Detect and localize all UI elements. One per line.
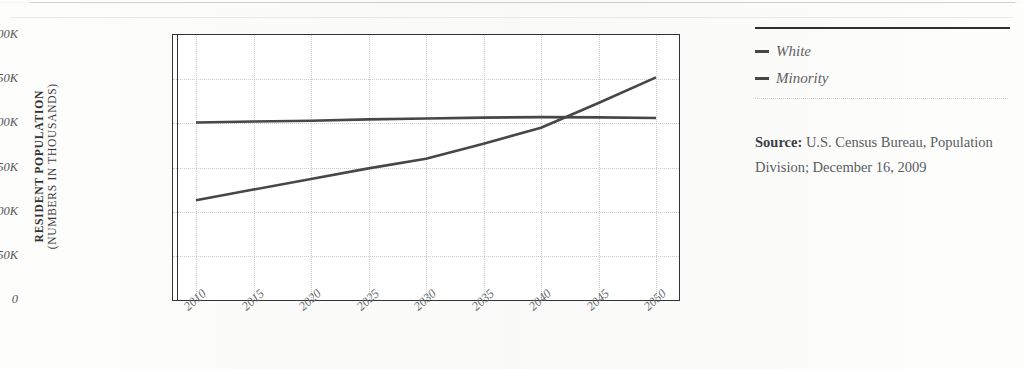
y-axis-title-sub: (NUMBERS IN THOUSANDS) xyxy=(46,83,59,249)
source-note: Source: U.S. Census Bureau, Population D… xyxy=(755,130,1017,180)
series-line-minority xyxy=(196,77,656,200)
y-axis-tick-label: 200K xyxy=(0,115,18,130)
y-axis-tick-label: 300K xyxy=(0,27,18,42)
legend-label: White xyxy=(776,43,811,60)
y-axis-tick-label: 0 xyxy=(12,292,18,307)
panel-dotted-rule xyxy=(755,98,1008,99)
legend-swatch-icon xyxy=(755,77,769,80)
y-axis-title: RESIDENT POPULATION (NUMBERS IN THOUSAND… xyxy=(24,28,68,304)
side-panel: WhiteMinority Source: U.S. Census Bureau… xyxy=(740,0,1023,369)
legend-label: Minority xyxy=(776,70,829,87)
source-label: Source: xyxy=(755,134,802,150)
chart-legend: WhiteMinority xyxy=(755,38,1010,92)
line-chart-figure: RESIDENT POPULATION (NUMBERS IN THOUSAND… xyxy=(0,0,700,369)
y-axis-tick-label: 150K xyxy=(0,159,18,174)
y-axis-tick-label: 250K xyxy=(0,71,18,86)
panel-top-rule xyxy=(755,27,1010,29)
y-axis-tick-label: 50K xyxy=(0,247,18,262)
series-lines xyxy=(173,35,679,300)
y-axis-title-main: RESIDENT POPULATION xyxy=(33,90,46,242)
legend-swatch-icon xyxy=(755,50,769,53)
legend-item[interactable]: White xyxy=(755,38,1010,65)
y-axis-tick-label: 100K xyxy=(0,203,18,218)
legend-item[interactable]: Minority xyxy=(755,65,1010,92)
series-line-white xyxy=(196,117,656,122)
plot-area xyxy=(172,34,680,301)
